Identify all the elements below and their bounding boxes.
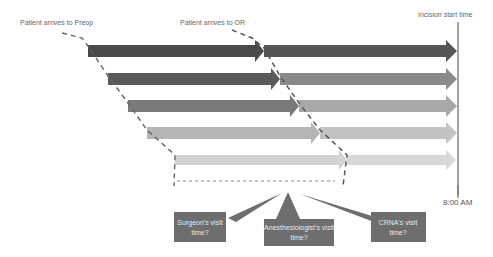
arrow-row-4-or — [320, 122, 457, 144]
preop-timeline-diagram: Patient arrives to Preop Patient arrives… — [0, 0, 493, 257]
arrow-row-2-or — [280, 68, 457, 90]
crna-callout-line1: CRNA's visit — [379, 219, 418, 226]
anesthesiologist-callout-pointer — [276, 192, 300, 219]
crna-callout-box — [371, 212, 426, 242]
surgeon-callout-box — [174, 212, 226, 242]
arrow-row-1-or — [264, 40, 457, 62]
arrow-row-2-preop — [108, 68, 280, 90]
anesthesiologist-callout-line1: Anesthesiologist's visit — [264, 224, 334, 232]
arrow-row-4 — [147, 122, 457, 144]
crna-callout-pointer — [300, 194, 374, 222]
arrow-row-3-or — [299, 95, 457, 117]
arrow-row-5-or — [347, 150, 456, 170]
diagram-canvas: Surgeon's visit time? Anesthesiologist's… — [0, 0, 493, 257]
arrow-row-1-preop — [88, 40, 264, 62]
surgeon-callout-pointer — [228, 193, 282, 222]
arrow-row-1 — [88, 40, 457, 62]
crna-callout-line2: time? — [389, 229, 406, 236]
surgeon-callout-line1: Surgeon's visit — [177, 219, 222, 227]
anesthesiologist-callout-line2: time? — [290, 234, 307, 241]
arrow-row-4-preop — [147, 122, 320, 144]
arrow-row-3 — [128, 95, 457, 117]
surgeon-callout-line2: time? — [191, 229, 208, 236]
arrow-row-3-preop — [128, 95, 299, 117]
arrow-row-5 — [175, 150, 456, 170]
arrow-row-5-preop — [175, 150, 347, 170]
